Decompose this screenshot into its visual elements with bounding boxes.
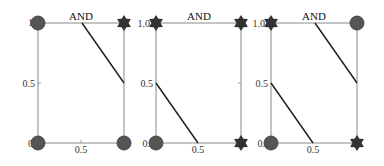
decision-boundary [82,23,124,83]
circle-marker [31,136,45,150]
panel-title: AND [302,10,326,22]
x-tick-mid: 0.5 [307,144,320,155]
x-tick-mid: 0.5 [192,144,205,155]
y-tick-mid: 0.5 [256,78,269,89]
circle-marker [350,16,364,30]
panel-2: AND 1.0 0.5 0. 0.5 [138,10,248,155]
and-diagram: AND 1 0.5 0 0.5 AND 1.0 0.5 0. 0.5 AND 1… [0,0,384,166]
circle-marker [149,136,163,150]
circle-marker [31,16,45,30]
x-tick-mid: 0.5 [75,144,88,155]
panel-3-frame [271,23,357,143]
decision-boundary [156,83,198,143]
circle-marker [117,136,131,150]
y-tick-mid: 0.5 [23,78,36,89]
y-tick-top: 1.0 [138,18,151,29]
panel-title: AND [69,10,93,22]
decision-boundary-lower [271,83,313,143]
circle-marker [264,136,278,150]
panel-1-frame [38,23,124,143]
panel-3: AND 1.0 0.5 0. 0.5 [253,10,365,155]
panel-title: AND [187,10,211,22]
decision-boundary-upper [315,23,357,83]
panel-2-frame [156,23,241,143]
y-tick-mid: 0.5 [141,78,154,89]
y-tick-top: 1.0 [253,18,266,29]
panel-1: AND 1 0.5 0 0.5 [23,10,132,155]
